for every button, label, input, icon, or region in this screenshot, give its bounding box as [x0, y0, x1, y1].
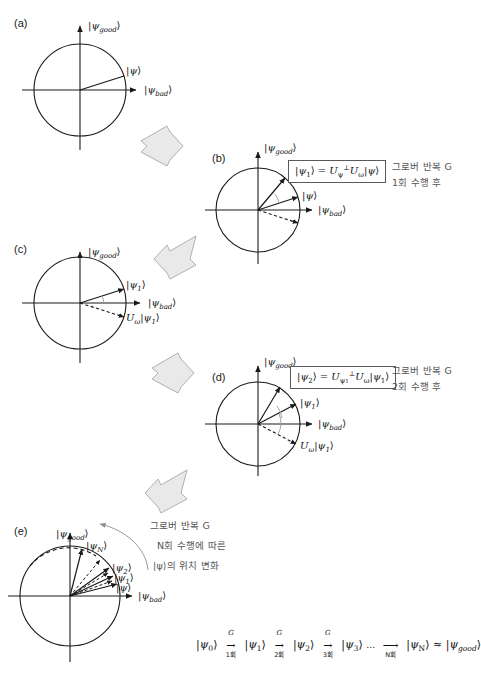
vector-label-psi-e: |ψ⟩ [116, 582, 131, 594]
seq-sub-N: N [419, 644, 426, 653]
caption-b-line1: 그로버 반복 G [392, 162, 452, 173]
vector-label-uw-psi1-d: Uω|ψ1⟩ [300, 440, 334, 454]
panel-letter-e: (e) [14, 525, 27, 538]
axis-bad-sub-b: bad [329, 210, 342, 218]
psi1-sub-d: 1 [311, 403, 315, 411]
axis-good-sub-c: good [99, 252, 116, 260]
psi1-sub2-c: 1 [151, 318, 155, 326]
axis-bad-sub-d: bad [329, 424, 342, 432]
axis-label-good-a: |ψgood⟩ [88, 20, 121, 34]
block-arrow-b-to-c [154, 236, 196, 279]
vector-label-psi1-d: |ψ1⟩ [300, 397, 320, 411]
seq-count-3: 3회 [318, 649, 338, 659]
seq-op-1: G [221, 629, 241, 637]
seq-approx: ≈ [433, 638, 442, 651]
formula-b-op2-sub: ω [358, 171, 364, 179]
seq-count-1: 1회 [221, 649, 241, 659]
formula-d-rhs-sub: 1 [381, 377, 385, 385]
axis-bad-sub-c: bad [159, 303, 172, 311]
vector-label-psi-b: |ψ⟩ [302, 190, 317, 202]
axis-label-bad-a: |ψbad⟩ [144, 84, 172, 98]
seq-sub-1: 1 [257, 644, 262, 653]
seq-term-1: |ψ1⟩ [244, 638, 265, 651]
axis-label-bad-b: |ψbad⟩ [318, 204, 346, 218]
caption-b-line2: 1회 수행 후 [392, 178, 441, 189]
seq-op-2: G [269, 629, 289, 637]
axis-bad-sub-e: bad [149, 596, 162, 604]
uw-sub-d: ω [308, 446, 314, 454]
block-arrow-a-to-b [141, 126, 183, 166]
panel-c-graphics [22, 252, 140, 363]
axis-good-sub-b: good [275, 148, 292, 156]
vector-label-psi1-c: |ψ1⟩ [126, 279, 146, 293]
formula-b-lhs-sub: 1 [306, 171, 310, 179]
formula-box-d: |ψ2⟩ = Uψ1⊥Uω|ψ1⟩ [290, 366, 396, 389]
panel-a-graphics [22, 26, 136, 150]
caption-d-line1: 그로버 반복 G [392, 366, 452, 377]
formula-d-op2-sub: ω [364, 377, 370, 385]
caption-e-line2: N회 수행에 따른 [157, 541, 226, 552]
vector-label-uw-psi1-c: Uω|ψ1⟩ [126, 312, 160, 326]
psi1-sub2-d: 1 [325, 446, 329, 454]
uw-sub-c: ω [134, 318, 140, 326]
seq-arrow-N: ⟶ N회 [379, 639, 403, 652]
block-arrow-c-to-d [152, 353, 194, 393]
seq-arrow-3: G → 3회 [318, 639, 338, 652]
panel-letter-a: (a) [14, 17, 27, 30]
axis-label-good-e: |ψgood⟩ [56, 528, 89, 542]
axis-label-good-c: |ψgood⟩ [88, 246, 121, 260]
axis-label-good-b: |ψgood⟩ [264, 142, 297, 156]
axis-label-bad-e: |ψbad⟩ [138, 590, 166, 604]
psiN-sub-e: N [97, 546, 103, 554]
caption-e-line1: 그로버 반복 G [150, 521, 210, 532]
seq-arrow-1: G → 1회 [221, 639, 241, 652]
seq-op-3: G [318, 629, 338, 637]
formula-d-lhs-sub: 2 [308, 377, 312, 385]
formula-d-op1-sub: ψ1 [340, 377, 349, 385]
axis-label-bad-c: |ψbad⟩ [148, 297, 176, 311]
vector-label-psi-a: |ψ⟩ [126, 65, 141, 77]
formula-b-op1-sup: ⊥ [343, 164, 350, 172]
seq-term-0: |ψ0⟩ [196, 638, 217, 651]
panel-letter-b: (b) [212, 152, 225, 165]
axis-good-sub-e: good [67, 534, 84, 542]
seq-count-2: 2회 [269, 649, 289, 659]
sequence-line: |ψ0⟩ G → 1회 |ψ1⟩ G → 2회 |ψ2⟩ G → 3회 |ψ3⟩… [196, 638, 481, 653]
seq-term-3: |ψ3⟩ [341, 638, 362, 651]
vector-label-psiN-e: |ψN⟩ [86, 540, 107, 554]
seq-ellipsis: … [366, 640, 375, 650]
seq-sub-0: 0 [208, 644, 213, 653]
seq-term-2: |ψ2⟩ [293, 638, 314, 651]
seq-count-N: N회 [379, 649, 403, 659]
formula-box-b: |ψ1⟩ = Uψ⊥Uω|ψ⟩ [288, 160, 386, 183]
axis-bad-sub-a: bad [155, 90, 168, 98]
panel-letter-c: (c) [14, 243, 27, 256]
axis-good-sub-a: good [99, 26, 116, 34]
psi1-sub-c: 1 [137, 285, 141, 293]
block-arrow-d-to-e [145, 470, 187, 513]
seq-term-N: |ψN⟩ [406, 638, 429, 651]
caption-d-line2: 2회 수행 후 [392, 382, 441, 393]
seq-term-good: |ψgood⟩ [446, 638, 481, 651]
seq-arrow-2: G → 2회 [269, 639, 289, 652]
formula-b-op1-sub: ψ [338, 171, 344, 179]
seq-sub-good: good [458, 644, 477, 653]
axis-label-bad-d: |ψbad⟩ [318, 418, 346, 432]
caption-e-line3: |ψ⟩의 위치 변화 [153, 561, 219, 572]
panel-letter-d: (d) [212, 371, 225, 384]
seq-sub-3: 3 [354, 644, 359, 653]
seq-sub-2: 2 [305, 644, 310, 653]
